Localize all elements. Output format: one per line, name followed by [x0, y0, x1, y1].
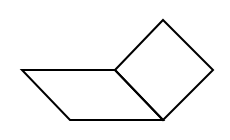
- parallelogram-shape: [22, 70, 163, 120]
- square-shape: [115, 20, 213, 120]
- geometry-diagram: [0, 0, 230, 140]
